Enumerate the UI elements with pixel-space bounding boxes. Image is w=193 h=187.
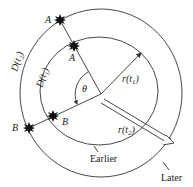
label-d-t2: D(t₂) bbox=[8, 49, 26, 73]
radius-t2-arrow bbox=[101, 99, 174, 145]
star-a-outer-icon bbox=[54, 14, 66, 26]
label-a-inner: A bbox=[68, 52, 76, 63]
star-a-inner-icon bbox=[68, 40, 80, 52]
earlier-leader bbox=[94, 146, 98, 152]
label-d-t1: D(t₁) bbox=[33, 65, 52, 90]
label-a-outer: A bbox=[44, 14, 52, 25]
label-b-inner: B bbox=[62, 116, 68, 127]
later-leader bbox=[163, 162, 169, 170]
star-b-outer-icon bbox=[23, 122, 35, 134]
label-theta: θ bbox=[82, 83, 87, 94]
label-earlier: Earlier bbox=[90, 153, 118, 164]
line-to-a bbox=[60, 20, 101, 94]
label-b-outer: B bbox=[12, 122, 18, 133]
expansion-diagram: A A B B θ r(t1) r(t2) D(t₂) D(t₁) Earlie… bbox=[0, 0, 193, 187]
label-r-t1: r(t1) bbox=[122, 73, 140, 86]
label-later: Later bbox=[161, 172, 183, 183]
